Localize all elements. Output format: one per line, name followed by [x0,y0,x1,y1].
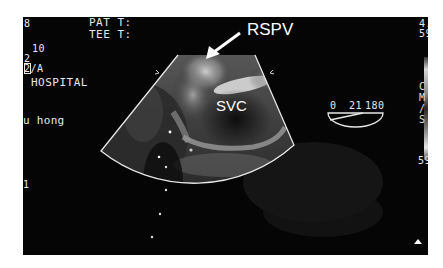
orientation-marker-icon [414,239,422,244]
scale-top-line2: 59 [419,29,428,39]
overlay-index-top: 8 [24,19,31,29]
overlay-index-bottom: 1 [23,180,30,190]
ultrasound-frame: 8 10 2 2/A HOSPITAL u hong 1 PAT T: TEE … [23,17,428,255]
overlay-hospital: HOSPITAL [31,78,88,88]
scale-unit-char: M [417,92,427,103]
pat-temp-label: PAT T: [89,18,132,28]
rspv-label: RSPV [247,21,293,38]
scale-bottom-value: 59 [418,156,428,166]
overlay-depth: 10 [32,44,45,54]
tee-temp-label: TEE T: [89,30,132,40]
svc-label: SVC [216,98,247,113]
overlay-mode: 2/A [24,64,44,74]
probe-angle-dial-icon [328,113,383,127]
overlay-mode-suffix: /A [31,63,44,74]
scale-unit-char: S [417,114,427,125]
scale-unit: C M / S [417,81,427,125]
probe-angle-max: 180 [365,101,385,111]
scale-unit-char: C [417,81,427,92]
scale-unit-char: / [417,103,427,114]
ultrasound-image [23,17,428,255]
probe-angle-current: 21 [349,101,362,111]
overlay-operator: u hong [23,116,65,126]
probe-angle-min: 0 [330,101,337,111]
